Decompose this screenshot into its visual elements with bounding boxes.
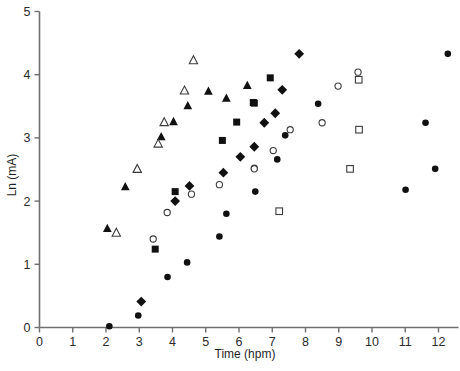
- y-tick-label: 1: [24, 258, 31, 272]
- series-open-circle: [150, 69, 361, 242]
- data-point-square: [356, 126, 363, 133]
- data-point-square: [233, 119, 240, 126]
- data-point-diamond: [218, 168, 228, 178]
- series-filled-diamond: [136, 49, 304, 307]
- series-open-square: [276, 76, 362, 214]
- data-point-square: [250, 99, 257, 106]
- data-point-triangle: [154, 139, 162, 147]
- data-point-triangle: [183, 101, 192, 109]
- data-point-circle: [355, 69, 361, 75]
- series-open-triangle: [112, 56, 198, 236]
- data-point-circle: [252, 188, 259, 195]
- scatter-plot-figure: 012345 0123456789101112 Time (hpm) Ln (m…: [0, 0, 460, 371]
- data-point-triangle: [112, 228, 120, 236]
- data-point-diamond: [294, 49, 304, 59]
- data-point-square: [355, 76, 362, 83]
- data-point-circle: [216, 233, 223, 240]
- data-point-circle: [150, 236, 156, 242]
- x-tick-label: 1: [69, 335, 76, 349]
- x-tick-label: 8: [302, 335, 309, 349]
- data-point-circle: [315, 100, 322, 107]
- data-point-diamond: [235, 152, 245, 162]
- data-point-triangle: [103, 224, 112, 232]
- data-points-layer: [103, 49, 451, 330]
- data-point-diamond: [270, 108, 280, 118]
- data-point-circle: [164, 209, 170, 215]
- data-point-diamond: [136, 297, 146, 307]
- data-point-diamond: [249, 142, 259, 152]
- chart-canvas: 012345 0123456789101112 Time (hpm) Ln (m…: [0, 0, 460, 371]
- y-tick-label: 5: [24, 5, 31, 19]
- data-point-triangle: [160, 118, 168, 126]
- series-filled-triangle: [103, 81, 252, 232]
- y-tick-label: 0: [24, 321, 31, 335]
- x-tick-label: 5: [202, 335, 209, 349]
- y-tick-label: 2: [24, 195, 31, 209]
- data-point-diamond: [259, 118, 269, 128]
- y-tick-label: 4: [24, 68, 31, 82]
- data-point-circle: [402, 186, 409, 193]
- x-tick-label: 11: [399, 335, 412, 349]
- data-point-circle: [216, 182, 222, 188]
- x-axis-ticks: 0123456789101112: [36, 328, 445, 349]
- data-point-triangle: [189, 56, 197, 64]
- x-tick-label: 3: [136, 335, 143, 349]
- data-point-circle: [135, 312, 142, 319]
- y-axis-title: Ln (mA): [5, 154, 19, 197]
- data-point-circle: [335, 83, 341, 89]
- data-point-circle: [188, 191, 194, 197]
- x-axis-title: Time (hpm): [215, 347, 276, 361]
- data-point-triangle: [204, 87, 213, 95]
- data-point-circle: [270, 147, 276, 153]
- data-point-circle: [432, 166, 439, 173]
- data-point-diamond: [170, 196, 180, 206]
- data-point-circle: [184, 259, 191, 266]
- data-point-square: [267, 74, 274, 81]
- data-point-circle: [287, 127, 293, 133]
- data-point-triangle: [169, 117, 178, 125]
- x-tick-label: 2: [103, 335, 110, 349]
- data-point-circle: [164, 274, 171, 281]
- data-point-square: [219, 137, 226, 144]
- data-point-circle: [274, 156, 281, 163]
- data-point-circle: [319, 120, 325, 126]
- data-point-triangle: [180, 86, 188, 94]
- data-point-diamond: [277, 85, 287, 95]
- data-point-square: [276, 208, 283, 215]
- data-point-square: [152, 246, 159, 253]
- x-tick-label: 9: [335, 335, 342, 349]
- x-tick-label: 10: [365, 335, 379, 349]
- data-point-circle: [282, 132, 289, 139]
- y-axis: 012345: [24, 5, 40, 335]
- series-filled-square: [152, 74, 274, 252]
- data-point-triangle: [121, 182, 130, 190]
- x-tick-label: 0: [36, 335, 43, 349]
- data-point-circle: [106, 323, 113, 330]
- data-point-circle: [223, 210, 230, 217]
- data-point-square: [172, 188, 179, 195]
- data-point-circle: [445, 51, 452, 58]
- data-point-diamond: [185, 181, 195, 191]
- data-point-triangle: [243, 81, 252, 89]
- data-point-triangle: [222, 93, 231, 101]
- x-axis: 0123456789101112: [36, 328, 458, 349]
- y-axis-ticks: 012345: [24, 5, 40, 335]
- x-tick-label: 12: [432, 335, 446, 349]
- data-point-circle: [251, 166, 257, 172]
- x-tick-label: 4: [169, 335, 176, 349]
- series-filled-circle: [106, 51, 451, 330]
- data-point-square: [347, 166, 354, 173]
- data-point-circle: [422, 119, 429, 126]
- data-point-triangle: [133, 164, 141, 172]
- y-tick-label: 3: [24, 131, 31, 145]
